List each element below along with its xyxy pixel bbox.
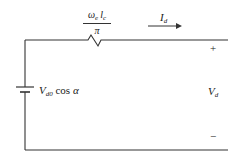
resistor-label: ωe lc π — [83, 9, 111, 36]
resistor-label-denominator: π — [83, 24, 111, 36]
battery-icon — [16, 87, 34, 92]
minus-sign: − — [210, 131, 216, 142]
plus-sign: + — [210, 43, 216, 54]
current-label: Id — [160, 12, 167, 25]
output-voltage-label: Vd — [208, 86, 218, 99]
top-wire — [25, 35, 228, 46]
resistor-label-numerator: ωe lc — [83, 9, 111, 24]
source-label: Vd0 cos α — [39, 85, 79, 98]
circuit-diagram — [0, 0, 238, 161]
